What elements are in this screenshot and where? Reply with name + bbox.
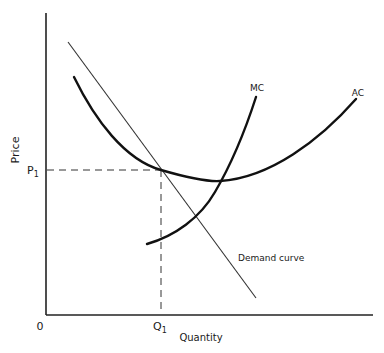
y-axis-label: Price <box>9 136 22 163</box>
mc-label: MC <box>250 83 264 93</box>
origin-label: 0 <box>37 320 44 333</box>
chart-svg: Price 0 P1 Q1 Quantity MC AC Demand curv… <box>0 0 384 353</box>
q1-label: Q1 <box>153 320 167 335</box>
demand-curve-label: Demand curve <box>238 253 305 263</box>
x-axis-label: Quantity <box>179 332 222 343</box>
ac-curve <box>74 77 356 181</box>
chart: Price 0 P1 Q1 Quantity MC AC Demand curv… <box>0 0 384 353</box>
p1-label: P1 <box>27 164 39 179</box>
ac-label: AC <box>352 88 364 98</box>
